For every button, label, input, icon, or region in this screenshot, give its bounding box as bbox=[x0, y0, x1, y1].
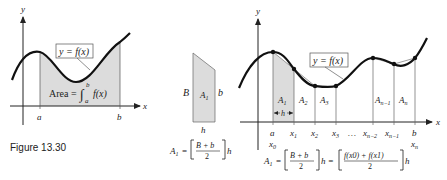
svg-text:h: h bbox=[227, 146, 232, 156]
svg-text:xn−1: xn−1 bbox=[384, 128, 399, 139]
svg-text:x3: x3 bbox=[331, 128, 339, 139]
y-axis-label: y bbox=[255, 6, 260, 16]
function-label: y = f(x) bbox=[58, 46, 90, 58]
svg-text:h: h bbox=[405, 156, 410, 166]
tick-b: b bbox=[117, 112, 122, 122]
tick-labels: a x0 x1 x2 x3 … xn−2 xn−1 b xn bbox=[268, 128, 418, 150]
svg-text:h =: h = bbox=[321, 156, 334, 166]
y-axis-label: y bbox=[20, 4, 25, 14]
svg-text:2: 2 bbox=[205, 152, 209, 161]
svg-text:f(x): f(x) bbox=[93, 88, 108, 100]
svg-text:=: = bbox=[182, 146, 187, 156]
svg-text:xn−2: xn−2 bbox=[362, 128, 377, 139]
figure-caption: Figure 13.30 bbox=[10, 142, 67, 153]
svg-text:a: a bbox=[85, 97, 89, 105]
area-label: Area = bbox=[49, 88, 77, 99]
svg-text:An−1: An−1 bbox=[374, 95, 391, 106]
svg-text:B + b: B + b bbox=[290, 151, 308, 160]
trapezoid-diagram: B b A1 h A1 = B + b 2 h bbox=[169, 53, 232, 161]
side-B: B bbox=[183, 87, 189, 98]
side-b: b bbox=[218, 87, 223, 98]
svg-text:=: = bbox=[276, 156, 281, 166]
svg-text:An: An bbox=[398, 95, 408, 106]
svg-text:2: 2 bbox=[368, 162, 372, 171]
region-labels: A1 A2 A3 An−1 An bbox=[277, 95, 408, 106]
svg-text:b: b bbox=[412, 128, 417, 138]
svg-text:b: b bbox=[86, 81, 90, 89]
right-graph: y = f(x) A1 A2 A3 An−1 An h a x0 x1 x2 x… bbox=[239, 6, 440, 171]
svg-text:x0: x0 bbox=[268, 139, 276, 150]
left-graph: y = f(x) Area = ∫ b a f(x) y x a b bbox=[10, 4, 147, 125]
svg-text:2: 2 bbox=[299, 162, 303, 171]
svg-text:x1: x1 bbox=[289, 128, 297, 139]
svg-text:A1: A1 bbox=[169, 146, 179, 157]
trapezoid-shape bbox=[193, 53, 215, 122]
function-label: y = f(x) bbox=[312, 55, 344, 67]
x-axis-label: x bbox=[142, 101, 147, 111]
svg-text:B + b: B + b bbox=[196, 141, 214, 150]
svg-text:f(x0) + f(x1): f(x0) + f(x1) bbox=[344, 151, 384, 160]
svg-text:A3: A3 bbox=[319, 95, 329, 106]
trapezoid-formula: A1 = B + b 2 h bbox=[169, 140, 232, 161]
svg-text:A2: A2 bbox=[298, 95, 308, 106]
svg-text:…: … bbox=[348, 128, 356, 138]
svg-text:a: a bbox=[270, 128, 275, 138]
tick-a: a bbox=[37, 112, 42, 122]
svg-text:A1: A1 bbox=[263, 156, 273, 167]
svg-text:xn: xn bbox=[410, 139, 418, 150]
base-h: h bbox=[201, 125, 206, 135]
svg-text:x2: x2 bbox=[310, 128, 318, 139]
right-formula: A1 = B + b 2 h = f(x0) + f(x1) 2 h bbox=[263, 150, 410, 171]
width-h: h bbox=[281, 109, 285, 118]
x-axis-label: x bbox=[435, 117, 440, 127]
